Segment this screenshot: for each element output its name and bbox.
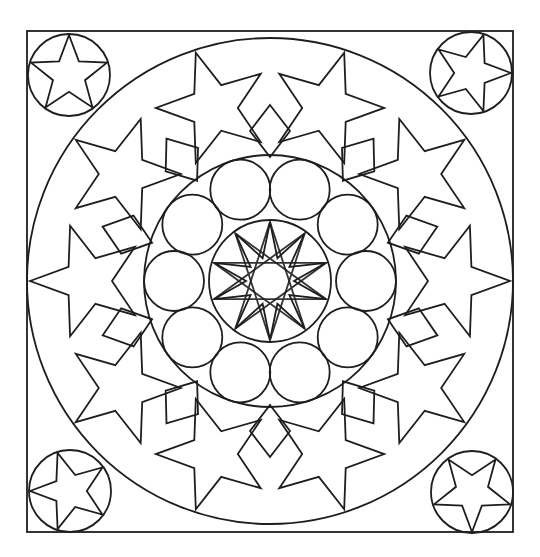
rhombus-icon xyxy=(250,405,290,457)
core-circle xyxy=(209,220,331,342)
large-star-icon xyxy=(156,53,261,163)
small-circle xyxy=(270,342,330,402)
rhombus-icon xyxy=(388,216,438,254)
corner-star-icon xyxy=(30,453,102,529)
large-star-icon xyxy=(279,53,384,163)
corner-medallion-top-left xyxy=(28,34,110,116)
large-star-icon xyxy=(279,399,384,509)
large-star-icon xyxy=(156,399,261,509)
mandala-artwork xyxy=(0,0,540,557)
rhombus-icon xyxy=(250,105,290,157)
corner-star-icon xyxy=(31,35,107,107)
core-star-icon xyxy=(214,222,326,340)
rhombus-icon xyxy=(103,308,153,346)
large-star-icon xyxy=(30,226,135,336)
rhombus-icon xyxy=(103,216,153,254)
corner-medallion-bottom-right xyxy=(431,451,513,533)
small-circle xyxy=(318,195,378,255)
corner-star-icon xyxy=(434,460,510,532)
rhombus-icon xyxy=(388,308,438,346)
corner-star-icon xyxy=(439,35,511,111)
small-circle xyxy=(162,307,222,367)
large-star-icon xyxy=(405,226,510,336)
star-ring xyxy=(30,53,510,510)
corner-medallion-top-right xyxy=(430,32,512,114)
small-circle xyxy=(210,160,270,220)
small-circle xyxy=(336,251,396,311)
small-circle xyxy=(144,251,204,311)
small-circle-ring xyxy=(144,160,396,403)
corner-medallion-bottom-left xyxy=(29,450,111,532)
outer-circle xyxy=(27,38,513,524)
